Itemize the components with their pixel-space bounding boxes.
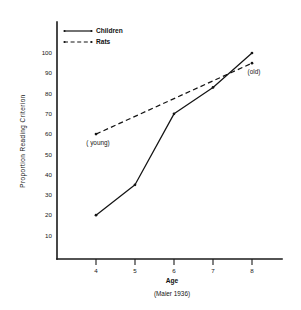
x-tick-label: 8	[250, 267, 254, 274]
legend-marker-children-start	[63, 30, 65, 32]
chart-annotation: ( young)	[86, 139, 109, 147]
x-tick-marks: 45678	[94, 259, 254, 274]
series-group	[95, 52, 254, 217]
y-tick-label: 90	[45, 69, 52, 76]
data-point-children	[173, 112, 176, 115]
data-point-children	[134, 183, 137, 186]
legend-label-rats: Rats	[96, 38, 111, 45]
y-tick-label: 30	[45, 191, 52, 198]
x-tick-label: 7	[211, 267, 215, 274]
data-point-children	[212, 86, 215, 89]
series-line-children	[96, 53, 252, 215]
data-point-rats	[251, 62, 254, 65]
y-tick-label: 40	[45, 171, 52, 178]
line-chart: 102030405060708090100 45678 ( young)(old…	[0, 0, 301, 310]
legend-marker-rats-start	[63, 41, 65, 43]
y-tick-label: 10	[45, 232, 52, 239]
x-axis-title: Age	[166, 277, 179, 285]
data-point-rats	[95, 133, 98, 136]
chart-legend: Children Rats	[63, 27, 122, 45]
x-tick-label: 5	[133, 267, 137, 274]
chart-source-note: (Maier 1936)	[154, 290, 190, 298]
y-axis-title: Proportion Reading Criterion	[19, 94, 27, 188]
x-tick-label: 4	[94, 267, 98, 274]
y-tick-label: 70	[45, 110, 52, 117]
legend-marker-rats-end	[90, 41, 92, 43]
legend-marker-children-end	[90, 30, 92, 32]
x-tick-label: 6	[172, 267, 176, 274]
y-tick-labels: 102030405060708090100	[42, 49, 53, 239]
chart-figure: 102030405060708090100 45678 ( young)(old…	[0, 0, 301, 310]
data-point-children	[95, 214, 98, 217]
annotations-group: ( young)(old)	[86, 68, 260, 147]
y-tick-label: 20	[45, 211, 52, 218]
legend-label-children: Children	[96, 27, 123, 34]
y-tick-label: 60	[45, 130, 52, 137]
y-tick-label: 50	[45, 151, 52, 158]
y-tick-label: 100	[42, 49, 53, 56]
y-tick-label: 80	[45, 90, 52, 97]
chart-annotation: (old)	[248, 68, 261, 76]
data-point-children	[251, 52, 254, 55]
